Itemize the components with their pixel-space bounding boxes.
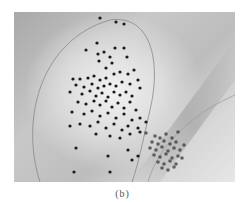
data-point — [92, 74, 95, 77]
data-point — [114, 84, 117, 87]
data-point — [98, 16, 101, 19]
data-point — [128, 132, 131, 135]
data-point — [176, 130, 180, 134]
data-point — [90, 109, 93, 112]
data-point — [162, 162, 166, 166]
data-point — [102, 50, 105, 53]
data-point — [106, 111, 109, 114]
data-point — [118, 93, 121, 96]
data-point — [125, 55, 128, 58]
data-point — [122, 112, 125, 115]
data-point — [94, 94, 97, 97]
data-point — [156, 142, 160, 146]
data-point — [112, 72, 115, 75]
data-point — [70, 110, 73, 113]
data-point — [130, 94, 133, 97]
data-point — [122, 22, 125, 25]
data-point — [68, 90, 71, 93]
data-point — [162, 139, 166, 143]
data-point — [118, 70, 121, 73]
data-point — [170, 156, 174, 160]
data-point — [152, 153, 156, 157]
data-point — [160, 166, 164, 170]
data-point — [138, 86, 141, 89]
data-point — [166, 149, 170, 153]
data-point — [132, 68, 135, 71]
data-point — [106, 154, 109, 157]
data-point — [78, 77, 81, 80]
data-point — [95, 41, 98, 44]
data-point — [136, 154, 139, 157]
data-point — [102, 84, 105, 87]
scatter-plot-panel — [14, 12, 235, 182]
dark-band — [130, 40, 235, 182]
data-point — [126, 148, 129, 151]
data-point — [88, 89, 91, 92]
plot-svg — [14, 12, 235, 182]
data-point — [138, 116, 141, 119]
data-point — [110, 61, 113, 64]
data-point — [98, 78, 101, 81]
data-point — [174, 162, 178, 166]
data-point — [180, 156, 184, 160]
data-point — [84, 102, 87, 105]
data-point — [68, 124, 71, 127]
data-point — [124, 90, 127, 93]
data-point — [90, 82, 93, 85]
data-point — [160, 145, 164, 149]
data-point — [158, 155, 162, 159]
data-point — [126, 72, 129, 75]
data-point — [72, 170, 75, 173]
data-point — [82, 85, 85, 88]
data-point — [172, 165, 176, 169]
figure-caption: (b) — [0, 188, 245, 199]
data-point — [170, 136, 174, 140]
data-point — [108, 134, 111, 137]
data-point — [94, 132, 97, 135]
data-point — [104, 126, 107, 129]
data-point — [122, 46, 125, 49]
data-point — [174, 140, 178, 144]
data-point — [134, 108, 137, 111]
data-point — [176, 154, 180, 158]
data-point — [112, 122, 115, 125]
data-point — [136, 126, 139, 129]
data-point — [168, 142, 172, 146]
data-point — [178, 148, 182, 152]
data-point — [108, 82, 111, 85]
data-point — [104, 99, 107, 102]
data-point — [120, 128, 123, 131]
data-point — [82, 112, 85, 115]
data-point — [144, 131, 148, 135]
data-point — [80, 92, 83, 95]
data-point — [76, 100, 79, 103]
data-point — [78, 122, 81, 125]
data-point — [136, 78, 139, 81]
data-point — [108, 55, 111, 58]
data-point — [172, 146, 176, 150]
data-point — [86, 76, 89, 79]
data-point — [112, 90, 115, 93]
data-point — [110, 105, 113, 108]
scatter-points — [68, 16, 185, 173]
data-point — [114, 116, 117, 119]
figure: (b) — [0, 0, 245, 204]
data-point — [166, 168, 170, 172]
data-point — [158, 136, 162, 140]
data-point — [71, 77, 74, 80]
data-point — [122, 106, 125, 109]
data-point — [113, 46, 116, 49]
data-point — [153, 134, 157, 138]
data-point — [128, 82, 131, 85]
data-point — [156, 160, 160, 164]
data-point — [96, 120, 99, 123]
data-point — [164, 132, 168, 136]
data-point — [138, 130, 141, 133]
data-point — [126, 124, 129, 127]
data-point — [168, 159, 172, 163]
data-point — [74, 83, 77, 86]
data-point — [118, 136, 121, 139]
data-point — [114, 20, 117, 23]
data-point — [144, 120, 147, 123]
data-point — [96, 52, 99, 55]
